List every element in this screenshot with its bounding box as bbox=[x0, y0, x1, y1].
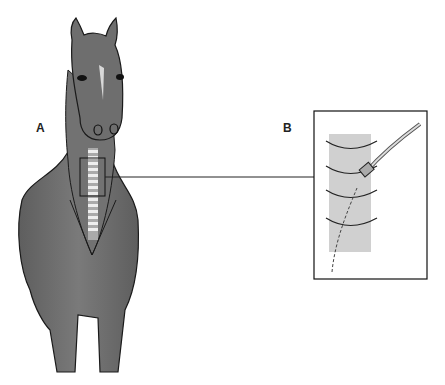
trachea bbox=[88, 148, 98, 240]
horse-illustration bbox=[0, 0, 445, 385]
eye-left bbox=[77, 75, 87, 81]
eye-right bbox=[116, 74, 124, 80]
inset-trachea bbox=[329, 134, 371, 252]
